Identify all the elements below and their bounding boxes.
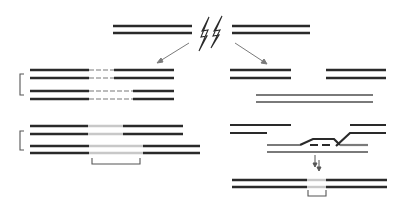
repaired-segment [307,180,326,187]
top-broken-dna [113,16,310,51]
resolution-arrows [313,155,321,171]
homologous-template [256,95,373,102]
arrowhead-left-icon [157,58,163,63]
dna-repair-diagram: DNA double-strand break repair pathways [0,0,404,210]
left-stage1 [20,70,174,99]
diagram-description: DNA double-strand break repair pathways [0,0,19,1]
right-stage1 [230,70,386,102]
invading-strand [300,139,340,145]
sister-bracket [20,74,24,95]
right-stage2 [230,125,386,171]
top-left-duplex [113,26,192,33]
homologous-template [267,145,368,152]
arrowhead-right-icon [261,59,267,64]
repair-bracket [308,190,326,196]
left-stage2 [20,126,200,164]
arrow-right-pathway [235,43,264,62]
right-stage3 [232,180,387,196]
lightning-bolt-icon [199,16,222,51]
top-right-duplex [232,26,310,33]
missing-segment-dashes [89,70,133,99]
repaired-segment [88,126,143,153]
sister-bracket [20,131,24,150]
deletion-bracket [92,158,140,164]
arrow-left-pathway [160,43,189,61]
